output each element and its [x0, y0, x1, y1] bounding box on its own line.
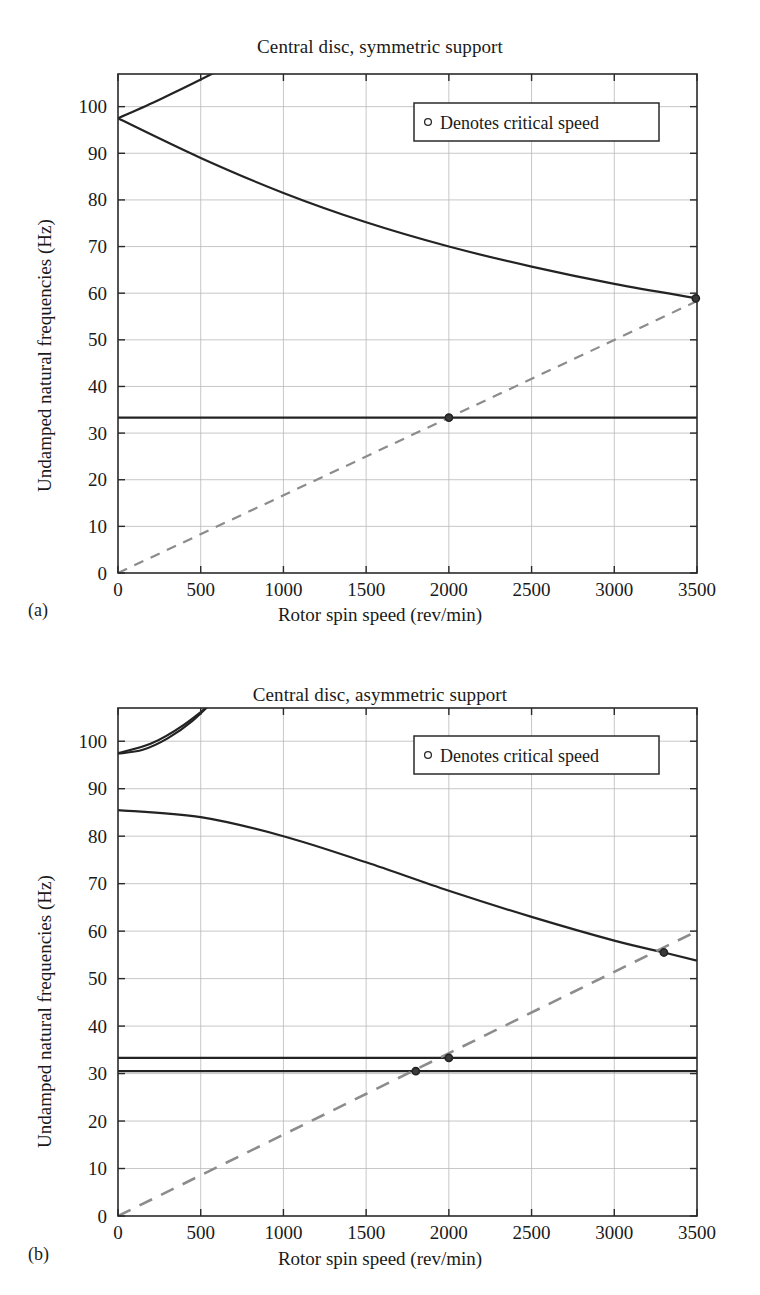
- plot-area-a: 0102030405060708090100050010001500200025…: [0, 0, 760, 648]
- critical-speed-marker: [660, 949, 667, 956]
- svg-text:0: 0: [98, 1206, 108, 1227]
- critical-speed-marker: [412, 1068, 419, 1075]
- svg-text:40: 40: [88, 376, 107, 397]
- svg-text:60: 60: [88, 921, 107, 942]
- legend-label: Denotes critical speed: [440, 746, 599, 766]
- plot-area-b: 0102030405060708090100050010001500200025…: [0, 648, 760, 1295]
- svg-text:2000: 2000: [430, 579, 468, 600]
- figure-b-asymmetric-support: Central disc, asymmetric support Undampe…: [0, 648, 760, 1295]
- svg-text:30: 30: [88, 1063, 107, 1084]
- svg-text:3500: 3500: [678, 1222, 716, 1243]
- svg-text:40: 40: [88, 1016, 107, 1037]
- series-line: [118, 118, 697, 298]
- svg-text:0: 0: [113, 579, 123, 600]
- svg-text:20: 20: [88, 1111, 107, 1132]
- svg-text:70: 70: [88, 236, 107, 257]
- svg-text:2500: 2500: [513, 579, 551, 600]
- svg-text:500: 500: [186, 1222, 215, 1243]
- svg-text:50: 50: [88, 968, 107, 989]
- svg-text:3000: 3000: [595, 1222, 633, 1243]
- grid-lines: [118, 74, 697, 573]
- critical-speed-marker: [445, 1054, 452, 1061]
- svg-text:50: 50: [88, 329, 107, 350]
- legend-label: Denotes critical speed: [440, 113, 599, 133]
- svg-text:0: 0: [98, 563, 108, 584]
- svg-text:0: 0: [113, 1222, 123, 1243]
- svg-text:80: 80: [88, 189, 107, 210]
- svg-text:1000: 1000: [264, 579, 302, 600]
- svg-text:80: 80: [88, 826, 107, 847]
- svg-text:2500: 2500: [513, 1222, 551, 1243]
- svg-text:10: 10: [88, 1158, 107, 1179]
- grid-lines: [118, 708, 697, 1216]
- axis-ticks: 0102030405060708090100050010001500200025…: [79, 708, 717, 1243]
- axis-frame: [118, 708, 697, 1216]
- legend-box: Denotes critical speed: [414, 736, 659, 774]
- svg-text:100: 100: [79, 96, 108, 117]
- svg-text:100: 100: [79, 731, 108, 752]
- series-line: [118, 670, 250, 753]
- series-line: [118, 810, 697, 961]
- svg-text:3000: 3000: [595, 579, 633, 600]
- svg-text:1000: 1000: [264, 1222, 302, 1243]
- svg-text:1500: 1500: [347, 1222, 385, 1243]
- svg-text:90: 90: [88, 143, 107, 164]
- svg-text:20: 20: [88, 469, 107, 490]
- critical-speed-marker: [692, 295, 699, 302]
- svg-text:70: 70: [88, 873, 107, 894]
- svg-text:2000: 2000: [430, 1222, 468, 1243]
- svg-text:90: 90: [88, 778, 107, 799]
- legend-box: Denotes critical speed: [414, 103, 659, 141]
- axis-frame: [118, 74, 697, 573]
- svg-text:10: 10: [88, 516, 107, 537]
- svg-text:60: 60: [88, 283, 107, 304]
- figure-a-symmetric-support: Central disc, symmetric support Undamped…: [0, 0, 760, 648]
- critical-speed-markers: [412, 949, 667, 1075]
- svg-text:1500: 1500: [347, 579, 385, 600]
- svg-text:500: 500: [186, 579, 215, 600]
- series-line: [118, 301, 697, 573]
- svg-text:3500: 3500: [678, 579, 716, 600]
- svg-text:30: 30: [88, 423, 107, 444]
- critical-speed-marker: [445, 414, 452, 421]
